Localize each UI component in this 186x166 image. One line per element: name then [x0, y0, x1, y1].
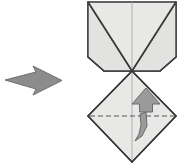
origami-diagram-svg: Origami fold step diagram A right-pointi…	[0, 0, 186, 166]
origami-diagram-root: Origami fold step diagram A right-pointi…	[0, 0, 186, 166]
